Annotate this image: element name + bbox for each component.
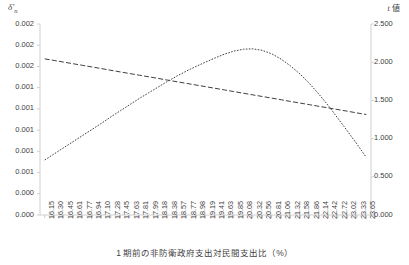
right-tick-label: 2.500 xyxy=(374,20,408,28)
x-axis-title: 1 期前の非防衛政府支出対民間支出比（%） xyxy=(0,246,409,258)
left-tick-label: 0.001 xyxy=(2,147,34,155)
left-tick-label: 0.000 xyxy=(2,189,34,197)
series-line-2 xyxy=(45,49,367,160)
left-tick-label: 0.001 xyxy=(2,168,34,176)
left-tick-label: 0.000 xyxy=(2,211,34,219)
plot-area xyxy=(0,0,409,265)
left-tick-label: 0.002 xyxy=(2,62,34,70)
left-tick-label: 0.002 xyxy=(2,41,34,49)
chart-container: δ′n t 値 0.0020.0020.0020.0010.0010.0010.… xyxy=(0,0,409,265)
right-tick-label: 0.000 xyxy=(374,211,408,219)
right-tick-label: 1.500 xyxy=(374,96,408,104)
right-tick-label: 2.000 xyxy=(374,58,408,66)
left-tick-label: 0.001 xyxy=(2,104,34,112)
right-tick-label: 1.000 xyxy=(374,134,408,142)
left-tick-label: 0.001 xyxy=(2,83,34,91)
left-tick-label: 0.001 xyxy=(2,126,34,134)
series-line-1 xyxy=(45,59,367,115)
right-tick-label: 0.500 xyxy=(374,172,408,180)
left-tick-label: 0.002 xyxy=(2,20,34,28)
